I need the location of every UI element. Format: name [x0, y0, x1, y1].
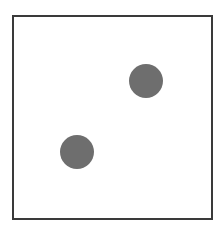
dice-face-frame [12, 15, 213, 220]
pip-dot [60, 135, 94, 169]
pip-dot [129, 64, 163, 98]
